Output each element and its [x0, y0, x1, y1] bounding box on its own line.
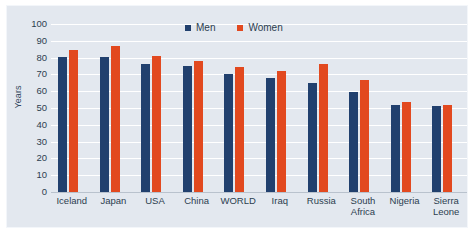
x-tick-label-line: Iraq: [259, 195, 301, 206]
y-tick-label-60: 60: [21, 86, 47, 96]
bar-men[interactable]: [183, 66, 192, 192]
bar-group[interactable]: [176, 24, 218, 192]
x-tick-label-line: Sierra: [425, 195, 467, 206]
bar-men[interactable]: [266, 78, 275, 192]
bar-women[interactable]: [69, 50, 78, 192]
bar-men[interactable]: [349, 92, 358, 192]
y-tick-label-90: 90: [21, 36, 47, 46]
bar-group[interactable]: [301, 24, 343, 192]
bar-women[interactable]: [360, 80, 369, 192]
y-tick-label-100: 100: [21, 19, 47, 29]
bar-group[interactable]: [425, 24, 467, 192]
y-tick-label-30: 30: [21, 137, 47, 147]
bar-women[interactable]: [111, 46, 120, 192]
bar-men[interactable]: [432, 106, 441, 192]
y-tick-label-10: 10: [21, 170, 47, 180]
x-axis-category-labels: IcelandJapanUSAChinaWORLDIraqRussiaSouth…: [51, 195, 467, 231]
bars-layer: [51, 24, 467, 192]
legend-item-women[interactable]: Women: [237, 23, 282, 33]
x-tick-label-line: South: [342, 195, 384, 206]
bar-men[interactable]: [391, 105, 400, 192]
legend-label: Women: [248, 23, 282, 33]
x-tick-label: SouthAfrica: [342, 195, 384, 217]
bar-women[interactable]: [194, 61, 203, 192]
bar-men[interactable]: [224, 74, 233, 192]
x-tick-label: Nigeria: [384, 195, 426, 206]
x-tick-label-line: WORLD: [217, 195, 259, 206]
bar-group[interactable]: [342, 24, 384, 192]
x-tick-label-line: Iceland: [51, 195, 93, 206]
bar-group[interactable]: [51, 24, 93, 192]
gridline-0: [51, 192, 467, 193]
bar-women[interactable]: [235, 67, 244, 192]
bar-women[interactable]: [152, 56, 161, 192]
x-tick-label: China: [176, 195, 218, 206]
x-tick-label-line: China: [176, 195, 218, 206]
y-axis-tick-labels: 1009080706050403020100: [17, 24, 47, 192]
x-tick-label: SierraLeone: [425, 195, 467, 217]
bar-men[interactable]: [141, 64, 150, 192]
chart-legend: MenWomen: [185, 21, 283, 35]
bar-women[interactable]: [402, 102, 411, 192]
y-tick-label-20: 20: [21, 153, 47, 163]
legend-swatch-icon: [237, 25, 243, 31]
y-tick-label-0: 0: [21, 187, 47, 197]
bar-group[interactable]: [217, 24, 259, 192]
x-tick-label: Iraq: [259, 195, 301, 206]
bar-women[interactable]: [277, 71, 286, 192]
x-tick-label-line: Nigeria: [384, 195, 426, 206]
x-tick-label-line: Africa: [342, 206, 384, 217]
x-tick-label: Iceland: [51, 195, 93, 206]
x-tick-label: Japan: [93, 195, 135, 206]
y-tick-label-40: 40: [21, 120, 47, 130]
bar-women[interactable]: [443, 105, 452, 192]
x-tick-label-line: Leone: [425, 206, 467, 217]
bar-group[interactable]: [384, 24, 426, 192]
legend-swatch-icon: [185, 25, 191, 31]
legend-item-men[interactable]: Men: [185, 23, 215, 33]
x-tick-label: WORLD: [217, 195, 259, 206]
x-tick-label-line: Japan: [93, 195, 135, 206]
legend-label: Men: [196, 23, 215, 33]
plot-area: [51, 24, 467, 192]
bar-group[interactable]: [93, 24, 135, 192]
x-tick-label: Russia: [301, 195, 343, 206]
life-expectancy-bar-chart: Years 1009080706050403020100 IcelandJapa…: [0, 0, 474, 239]
bar-men[interactable]: [100, 57, 109, 192]
y-tick-label-80: 80: [21, 53, 47, 63]
y-tick-label-50: 50: [21, 103, 47, 113]
bar-men[interactable]: [308, 83, 317, 192]
y-tick-label-70: 70: [21, 69, 47, 79]
x-tick-label-line: USA: [134, 195, 176, 206]
bar-women[interactable]: [319, 64, 328, 192]
chart-plate: Years 1009080706050403020100 IcelandJapa…: [6, 5, 468, 228]
bar-men[interactable]: [58, 57, 67, 192]
x-tick-label-line: Russia: [301, 195, 343, 206]
bar-group[interactable]: [134, 24, 176, 192]
bar-group[interactable]: [259, 24, 301, 192]
x-tick-label: USA: [134, 195, 176, 206]
